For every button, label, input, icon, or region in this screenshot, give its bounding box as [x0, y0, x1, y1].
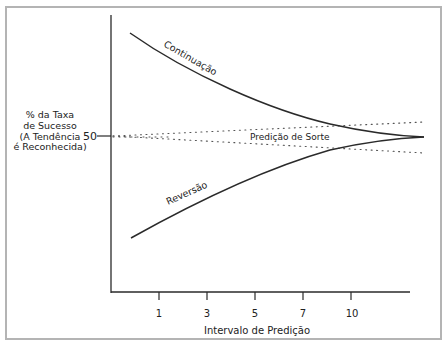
- y-tick-label-50: 50: [83, 130, 97, 143]
- x-tick-label-7: 7: [300, 308, 306, 319]
- reversal-curve: [131, 137, 424, 238]
- chance-label: Predição de Sorte: [250, 132, 330, 142]
- reversal-label: Reversão: [164, 179, 209, 207]
- x-tick-label-3: 3: [204, 308, 210, 319]
- x-tick-label-1: 1: [156, 308, 162, 319]
- chart-canvas: 50 1 3 5 7 10 Intervalo de Predição Cont…: [0, 0, 448, 348]
- x-ticks: [159, 292, 351, 300]
- x-tick-label-5: 5: [252, 308, 258, 319]
- x-axis-title: Intervalo de Predição: [204, 325, 310, 336]
- x-tick-label-10: 10: [346, 308, 359, 319]
